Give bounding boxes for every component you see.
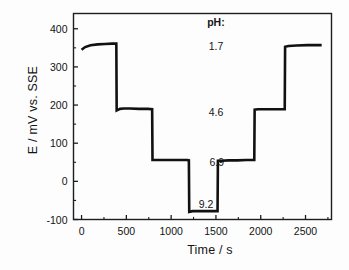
chart-figure: E / mV vs. SSE Time / s -100010020030040… xyxy=(0,0,349,270)
y-tick-label: 0 xyxy=(32,175,68,187)
x-tick-label: 0 xyxy=(79,225,85,237)
y-tick-label: 100 xyxy=(32,137,68,149)
axis-ticks xyxy=(74,29,328,220)
x-tick-label: 1500 xyxy=(204,225,227,237)
ph-annotation-header: pH: xyxy=(207,16,225,28)
data-series xyxy=(82,44,322,212)
x-tick-label: 500 xyxy=(118,225,136,237)
x-tick-label: 2500 xyxy=(294,225,317,237)
y-tick-label: 400 xyxy=(32,23,68,35)
x-axis-title: Time / s xyxy=(130,243,290,257)
y-tick-label: 300 xyxy=(32,61,68,73)
ph-annotation-value: 9.2 xyxy=(199,198,214,210)
y-tick-label: -100 xyxy=(32,214,68,226)
ph-annotation-value: 1.7 xyxy=(209,40,224,52)
ph-annotation-value: 4.6 xyxy=(209,106,224,118)
ph-annotation-value: 6.9 xyxy=(210,156,225,168)
x-tick-label: 2000 xyxy=(249,225,272,237)
y-tick-label: 200 xyxy=(32,99,68,111)
x-tick-label: 1000 xyxy=(159,225,182,237)
